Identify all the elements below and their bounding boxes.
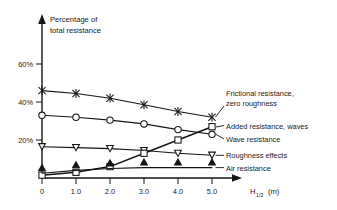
annotation-added-waves-label: Added resistance, waves — [226, 122, 308, 131]
x-axis-title-unit: (m) — [268, 187, 280, 196]
series-air-resistance — [39, 159, 216, 173]
x-tick-label-3: 3.0 — [139, 187, 149, 196]
annotation-frictional-resistance: Frictional resistance, zero roughness — [216, 89, 294, 117]
y-axis-ticks — [36, 64, 42, 140]
annotation-wave-label: Wave resistance — [226, 135, 280, 144]
x-tick-label-0: 0 — [40, 187, 44, 196]
x-axis-ticks — [42, 178, 212, 184]
resistance-percentage-line-chart: 20% 40% 60% Percentage of total resistan… — [0, 0, 337, 210]
x-axis-arrowhead — [232, 174, 242, 182]
y-axis — [38, 14, 46, 178]
x-axis-title-subscript: 1/3 — [256, 192, 263, 198]
y-axis-title-line2: total resistance — [50, 26, 101, 35]
annotation-frictional-line2: zero roughness — [226, 99, 277, 108]
y-tick-label-20: 20% — [18, 136, 33, 145]
y-axis-title-line1: Percentage of — [50, 15, 98, 24]
x-axis-title: H 1/3 (m) — [250, 187, 280, 198]
chart-container: 20% 40% 60% Percentage of total resistan… — [0, 0, 337, 210]
y-axis-arrowhead — [38, 14, 46, 24]
x-tick-label-4: 4.0 — [173, 187, 183, 196]
annotation-added-resistance-waves: Added resistance, waves — [216, 122, 308, 131]
series-wave-resistance — [39, 112, 215, 137]
x-tick-label-5: 5.0 — [207, 187, 217, 196]
x-tick-label-1: 1.0 — [71, 187, 81, 196]
series-added-resistance-waves — [39, 124, 215, 179]
annotation-air-label: Air resistance — [226, 164, 271, 173]
annotation-roughness-effects: Roughness effects — [216, 151, 288, 160]
x-axis-title-base: H — [250, 187, 255, 196]
annotation-frictional-line1: Frictional resistance, — [226, 89, 294, 98]
annotation-air-resistance: Air resistance — [216, 164, 271, 173]
y-tick-label-60: 60% — [18, 60, 33, 69]
series-wave-markers — [39, 112, 215, 137]
series-added-resistance-markers — [39, 124, 215, 179]
annotation-roughness-label: Roughness effects — [226, 151, 287, 160]
annotation-wave-resistance: Wave resistance — [216, 134, 281, 144]
series-roughness-markers — [39, 144, 216, 159]
series-roughness-effects — [39, 144, 216, 159]
x-tick-label-2: 2.0 — [105, 187, 115, 196]
y-tick-label-40: 40% — [18, 98, 33, 107]
